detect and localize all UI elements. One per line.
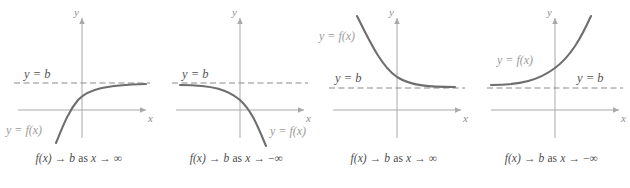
graph-panel-2: x y y = b y = f(x) f(x) → b as x → −∞ bbox=[158, 0, 316, 188]
y-axis-arrow-icon bbox=[79, 18, 85, 24]
caption-limit: ∞ bbox=[114, 152, 122, 164]
caption-arrow-1: → bbox=[524, 152, 536, 164]
caption-fx: f(x) bbox=[35, 152, 51, 164]
panel-3-plot: x y y = b y = f(x) bbox=[315, 0, 473, 150]
function-curve bbox=[180, 85, 266, 146]
function-label: y = f(x) bbox=[318, 29, 355, 43]
caption-arrow-1: → bbox=[55, 152, 67, 164]
caption-b: b bbox=[224, 152, 230, 164]
function-label: y = f(x) bbox=[496, 53, 533, 67]
caption-arrow-2: → bbox=[414, 152, 426, 164]
caption-as: as bbox=[232, 152, 242, 164]
caption-limit: ∞ bbox=[429, 152, 437, 164]
function-curve bbox=[56, 84, 146, 143]
asymptote-label: y = b bbox=[180, 67, 208, 81]
x-axis-label: x bbox=[620, 112, 626, 124]
y-axis-arrow-icon bbox=[237, 18, 243, 24]
panel-1-plot: x y y = b y = f(x) bbox=[0, 0, 158, 150]
caption-fx: f(x) bbox=[350, 152, 366, 164]
caption-fx: f(x) bbox=[505, 152, 521, 164]
caption-arrow-2: → bbox=[568, 152, 580, 164]
function-curve bbox=[357, 16, 455, 87]
panel-4-caption: f(x) → b as x → −∞ bbox=[473, 152, 630, 164]
caption-limit: −∞ bbox=[583, 152, 598, 164]
panel-1-caption: f(x) → b as x → ∞ bbox=[0, 152, 158, 164]
x-axis-label: x bbox=[462, 112, 468, 124]
asymptote-label: y = b bbox=[575, 71, 603, 85]
caption-limit: −∞ bbox=[268, 152, 283, 164]
caption-b: b bbox=[69, 152, 75, 164]
graph-panel-3: x y y = b y = f(x) f(x) → b as x → ∞ bbox=[315, 0, 473, 188]
panel-4-plot: x y y = b y = f(x) bbox=[473, 0, 630, 150]
y-axis-label: y bbox=[73, 6, 79, 18]
y-axis-arrow-icon bbox=[552, 18, 558, 24]
x-axis-arrow-icon bbox=[140, 107, 146, 113]
x-axis-label: x bbox=[305, 112, 311, 124]
caption-arrow-2: → bbox=[253, 152, 265, 164]
caption-arrow-1: → bbox=[370, 152, 382, 164]
x-axis-arrow-icon bbox=[455, 107, 461, 113]
function-curve bbox=[491, 16, 591, 85]
x-axis-arrow-icon bbox=[613, 107, 619, 113]
graph-panel-1: x y y = b y = f(x) f(x) → b as x → ∞ bbox=[0, 0, 158, 188]
caption-arrow-1: → bbox=[209, 152, 221, 164]
caption-x: x bbox=[245, 152, 250, 164]
function-label: y = f(x) bbox=[5, 123, 42, 137]
caption-b: b bbox=[539, 152, 545, 164]
function-label: y = f(x) bbox=[269, 124, 306, 138]
y-axis-label: y bbox=[388, 6, 394, 18]
caption-x: x bbox=[406, 152, 411, 164]
asymptote-label: y = b bbox=[22, 67, 50, 81]
caption-fx: f(x) bbox=[190, 152, 206, 164]
caption-b: b bbox=[384, 152, 390, 164]
horizontal-asymptote-figure: x y y = b y = f(x) f(x) → b as x → ∞ x y… bbox=[0, 0, 630, 188]
caption-arrow-2: → bbox=[99, 152, 111, 164]
panel-2-plot: x y y = b y = f(x) bbox=[158, 0, 316, 150]
caption-as: as bbox=[393, 152, 403, 164]
panel-2-caption: f(x) → b as x → −∞ bbox=[158, 152, 316, 164]
x-axis-arrow-icon bbox=[298, 107, 304, 113]
y-axis-arrow-icon bbox=[394, 18, 400, 24]
panel-3-caption: f(x) → b as x → ∞ bbox=[315, 152, 473, 164]
asymptote-label: y = b bbox=[333, 71, 361, 85]
caption-x: x bbox=[560, 152, 565, 164]
caption-as: as bbox=[78, 152, 88, 164]
graph-panel-4: x y y = b y = f(x) f(x) → b as x → −∞ bbox=[473, 0, 630, 188]
y-axis-label: y bbox=[546, 6, 552, 18]
caption-x: x bbox=[91, 152, 96, 164]
x-axis-label: x bbox=[147, 112, 153, 124]
y-axis-label: y bbox=[231, 6, 237, 18]
caption-as: as bbox=[547, 152, 557, 164]
